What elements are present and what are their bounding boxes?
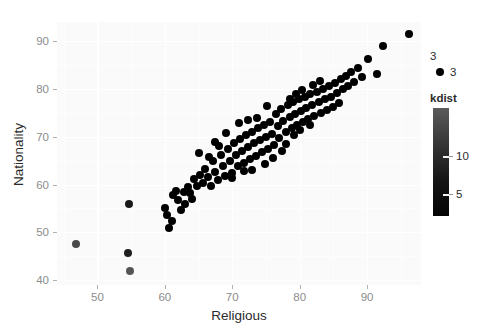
data-point bbox=[235, 119, 243, 127]
grid-line-minor-vertical bbox=[401, 22, 402, 285]
y-tick-label: 70 bbox=[36, 131, 49, 143]
x-tick-label: 70 bbox=[226, 291, 239, 303]
data-point bbox=[278, 147, 286, 155]
y-tick-mark bbox=[53, 232, 57, 233]
circle-marker-icon bbox=[436, 68, 444, 76]
x-axis-title: Religious bbox=[0, 308, 478, 323]
colorbar-title: kdist bbox=[430, 92, 490, 104]
data-point bbox=[207, 182, 215, 190]
grid-line-minor-vertical bbox=[266, 22, 267, 285]
data-point bbox=[181, 200, 189, 208]
plot-panel bbox=[57, 22, 421, 285]
grid-line-minor-vertical bbox=[333, 22, 334, 285]
grid-line-major-vertical bbox=[165, 22, 166, 285]
kdist-colorbar-legend: kdist 105 bbox=[430, 92, 490, 216]
data-point bbox=[379, 42, 387, 50]
data-point bbox=[405, 30, 413, 38]
x-tick-mark bbox=[97, 285, 98, 289]
data-point bbox=[286, 95, 294, 103]
data-point bbox=[282, 140, 290, 148]
colorbar-tick-label: 10 bbox=[456, 150, 469, 162]
data-point bbox=[217, 151, 225, 159]
data-point bbox=[306, 121, 314, 129]
grid-line-minor-vertical bbox=[131, 22, 132, 285]
data-point bbox=[358, 73, 366, 81]
y-tick-mark bbox=[53, 89, 57, 90]
data-point bbox=[364, 55, 372, 63]
data-point bbox=[261, 160, 269, 168]
data-point bbox=[263, 102, 271, 110]
data-point bbox=[222, 129, 230, 137]
legend-area: 3 3 kdist 105 bbox=[430, 50, 490, 230]
x-tick-label: 90 bbox=[361, 291, 374, 303]
y-tick-label: 40 bbox=[36, 274, 49, 286]
data-point bbox=[205, 153, 213, 161]
legend-entry-label: 3 bbox=[450, 66, 456, 78]
data-point bbox=[125, 200, 133, 208]
data-point bbox=[211, 138, 219, 146]
data-point bbox=[354, 64, 362, 72]
data-point bbox=[240, 167, 248, 175]
data-point bbox=[219, 162, 227, 170]
data-point bbox=[124, 249, 132, 257]
x-tick-mark bbox=[367, 285, 368, 289]
data-point bbox=[316, 77, 324, 85]
data-point bbox=[211, 168, 219, 176]
data-point bbox=[266, 118, 274, 126]
data-point bbox=[168, 217, 176, 225]
data-point bbox=[253, 114, 261, 122]
data-point bbox=[224, 145, 232, 153]
y-tick-label: 80 bbox=[36, 83, 49, 95]
x-tick-mark bbox=[165, 285, 166, 289]
data-point bbox=[269, 154, 277, 162]
data-point bbox=[373, 70, 381, 78]
data-point bbox=[244, 116, 252, 124]
colorbar-tick-mark bbox=[449, 156, 453, 157]
grid-line-major-vertical bbox=[300, 22, 301, 285]
data-point bbox=[296, 126, 304, 134]
x-tick-label: 50 bbox=[91, 291, 104, 303]
y-tick-mark bbox=[53, 41, 57, 42]
colorbar-tick-mark bbox=[449, 194, 453, 195]
data-point bbox=[201, 165, 209, 173]
y-tick-label: 90 bbox=[36, 35, 49, 47]
grid-line-minor-vertical bbox=[64, 22, 65, 285]
data-point bbox=[204, 173, 212, 181]
x-tick-label: 60 bbox=[158, 291, 171, 303]
data-point bbox=[172, 187, 180, 195]
colorbar-gradient bbox=[433, 108, 449, 216]
x-tick-mark bbox=[232, 285, 233, 289]
colorbar-wrap: 105 bbox=[430, 108, 490, 216]
data-point bbox=[270, 141, 278, 149]
y-tick-mark bbox=[53, 280, 57, 281]
data-point bbox=[350, 78, 358, 86]
data-point bbox=[248, 166, 256, 174]
legend-entry[interactable]: 3 bbox=[430, 66, 490, 78]
y-tick-mark bbox=[53, 137, 57, 138]
y-tick-label: 50 bbox=[36, 226, 49, 238]
chart-root: Nationality Religious 3 3 kdist 105 4050… bbox=[0, 0, 490, 333]
size-legend: 3 3 bbox=[430, 50, 490, 78]
data-point bbox=[126, 267, 134, 275]
data-point bbox=[188, 195, 196, 203]
data-point bbox=[195, 149, 203, 157]
colorbar-tick-label: 5 bbox=[456, 188, 462, 200]
data-point bbox=[228, 174, 236, 182]
data-point bbox=[335, 99, 343, 107]
size-legend-title: 3 bbox=[430, 50, 490, 62]
y-tick-label: 60 bbox=[36, 179, 49, 191]
y-tick-mark bbox=[53, 185, 57, 186]
data-point bbox=[72, 240, 80, 248]
x-tick-mark bbox=[300, 285, 301, 289]
x-tick-label: 80 bbox=[293, 291, 306, 303]
y-axis-title: Nationality bbox=[11, 75, 26, 235]
grid-line-major-vertical bbox=[97, 22, 98, 285]
